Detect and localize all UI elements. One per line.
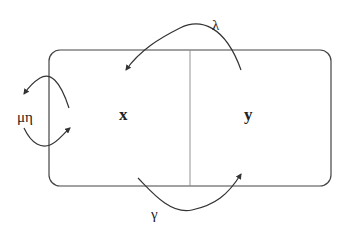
lambda-arrow [126, 24, 241, 70]
mu-eta-label: μη [17, 109, 33, 125]
gamma-label: γ [150, 206, 158, 222]
lambda-label: λ [212, 17, 220, 33]
compartment-diagram: x y λ γ μη [0, 0, 347, 233]
compartment-x-label: x [119, 105, 128, 124]
mu-eta-outflow-arrow [24, 76, 69, 108]
mu-eta-inflow-arrow [24, 128, 70, 146]
compartment-y-label: y [244, 105, 253, 124]
